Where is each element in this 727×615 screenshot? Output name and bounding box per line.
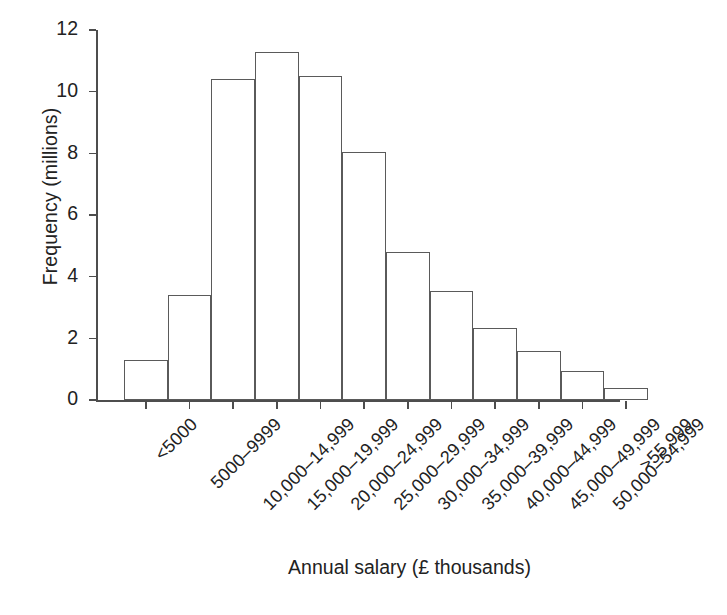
x-axis-tick-labels: <50005000–999910,000–14,99915,000–19,999… — [70, 400, 630, 540]
x-axis-title: Annual salary (£ thousands) — [0, 556, 727, 579]
y-axis-tick-label: 10 — [56, 79, 78, 102]
y-axis-tick: 6 — [89, 214, 96, 216]
y-axis-tick: 12 — [89, 29, 96, 31]
scan-edge — [0, 600, 727, 615]
histogram-figure: Frequency (millions) 024681012 <50005000… — [0, 0, 727, 615]
histogram-bar — [430, 291, 474, 400]
y-axis-tick-label: 12 — [56, 17, 78, 40]
histogram-bar — [124, 360, 168, 400]
x-axis-category-label: <5000 — [151, 414, 202, 465]
histogram-bar — [342, 152, 386, 400]
histogram-bar — [211, 79, 255, 400]
y-axis-tick: 4 — [89, 276, 96, 278]
histogram-bar — [168, 295, 212, 400]
histogram-bar — [255, 52, 299, 400]
y-axis-title: Frequency (millions) — [39, 67, 62, 327]
y-axis-tick-label: 2 — [67, 326, 78, 349]
y-axis-tick-label: 4 — [67, 264, 78, 287]
y-axis-tick: 8 — [89, 153, 96, 155]
histogram-bar — [386, 252, 430, 400]
histogram-bar — [561, 371, 605, 400]
plot-area: 024681012 — [96, 30, 620, 400]
histogram-bar — [604, 388, 648, 400]
y-axis-line — [96, 30, 98, 400]
y-axis-tick: 2 — [89, 338, 96, 340]
y-axis-tick-label: 8 — [67, 141, 78, 164]
histogram-bar — [473, 328, 517, 400]
y-axis-tick: 10 — [89, 91, 96, 93]
histogram-bar — [299, 76, 343, 400]
x-axis-category-label: 5000–9999 — [206, 414, 285, 493]
y-axis-tick-label: 6 — [67, 202, 78, 225]
histogram-bar — [517, 351, 561, 400]
